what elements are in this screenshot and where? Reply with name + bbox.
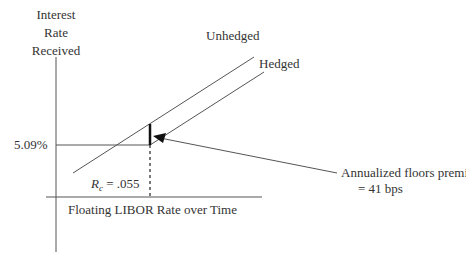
y-axis-label-line-1: Interest xyxy=(0,6,112,24)
hedged-label: Hedged xyxy=(259,56,299,72)
floor-rate-label: 5.09% xyxy=(14,137,48,153)
y-axis-label-line-2: Rate xyxy=(0,24,112,42)
unhedged-label: Unhedged xyxy=(206,28,259,44)
annotation-line-1: Annualized floors premium = Max (Rc − Rf… xyxy=(341,165,466,181)
cap-rate-label: Rc = .055 xyxy=(91,176,140,192)
annotation-prefix: Annualized floors premium = Max ( xyxy=(341,165,466,180)
y-axis-label: Interest Rate Received xyxy=(0,6,112,60)
cap-rate-value: = .055 xyxy=(106,176,139,191)
annotation-arrow-line xyxy=(160,138,337,173)
y-axis-label-line-3: Received xyxy=(0,42,112,60)
hedged-line xyxy=(150,72,264,145)
cap-rate-sub: c xyxy=(99,183,103,193)
annotation-line-2: = 41 bps xyxy=(358,181,403,197)
cap-rate-var: R xyxy=(91,176,99,191)
unhedged-line xyxy=(73,57,254,173)
x-axis-label: Floating LIBOR Rate over Time xyxy=(68,202,237,218)
